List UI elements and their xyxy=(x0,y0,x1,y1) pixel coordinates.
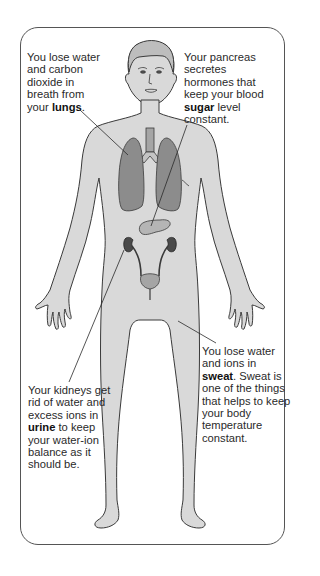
annotation-lungs-tail: . xyxy=(82,101,85,113)
left-kidney xyxy=(124,237,133,251)
annotation-pancreas-text: Your pancreas secretes hormones that kee… xyxy=(184,51,264,100)
annotation-sweat-text: You lose water and ions in xyxy=(202,345,275,369)
annotation-sweat: You lose water and ions in sweat. Sweat … xyxy=(202,345,292,444)
trachea xyxy=(146,128,154,152)
annotation-lungs-keyword: lungs xyxy=(52,101,82,113)
annotation-lungs: You lose water and carbon dioxide in bre… xyxy=(27,51,107,113)
annotation-kidneys-keyword: urine xyxy=(28,421,55,433)
annotation-pancreas-keyword: sugar xyxy=(184,101,214,113)
annotation-kidneys: Your kidneys get rid of water and excess… xyxy=(28,384,118,471)
right-kidney xyxy=(167,237,176,251)
annotation-kidneys-text: Your kidneys get rid of water and excess… xyxy=(28,384,110,421)
annotation-sweat-keyword: sweat xyxy=(202,370,233,382)
annotation-pancreas: Your pancreas secretes hormones that kee… xyxy=(184,51,279,125)
